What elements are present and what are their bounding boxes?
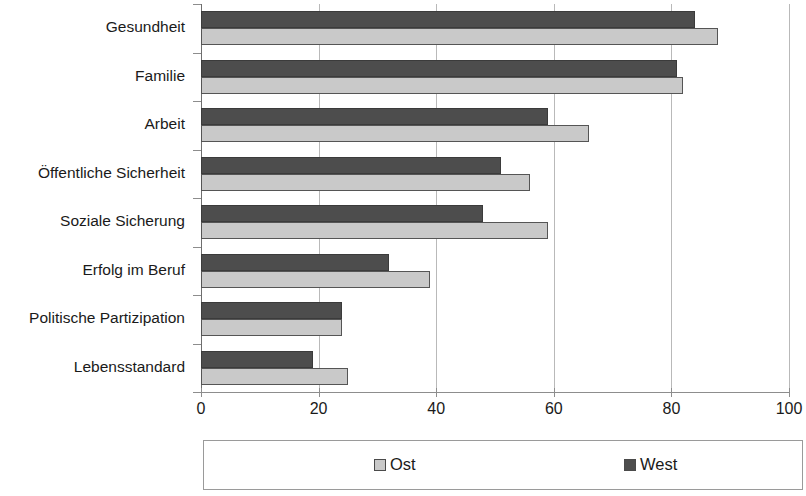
category-label-1: Familie bbox=[0, 67, 193, 85]
legend-entry-ost[interactable]: Ost bbox=[374, 455, 416, 474]
bar-west-4 bbox=[201, 205, 483, 222]
bar-chart: GesundheitFamilieArbeitÖffentliche Siche… bbox=[0, 0, 806, 496]
bar-west-0 bbox=[201, 11, 695, 28]
bar-west-7 bbox=[201, 351, 313, 368]
y-tick-mark-7 bbox=[193, 344, 201, 345]
bar-west-3 bbox=[201, 157, 501, 174]
gridline-100 bbox=[789, 4, 790, 392]
x-tick-label-80: 80 bbox=[662, 400, 680, 418]
legend-label-west: West bbox=[640, 455, 677, 474]
x-axis-line bbox=[201, 392, 790, 393]
x-tick-mark-0 bbox=[201, 388, 202, 397]
y-tick-mark-1 bbox=[193, 53, 201, 54]
y-tick-mark-2 bbox=[193, 101, 201, 102]
bar-ost-0 bbox=[201, 28, 718, 45]
x-tick-mark-80 bbox=[671, 388, 672, 397]
bar-ost-7 bbox=[201, 368, 348, 385]
category-label-4: Soziale Sicherung bbox=[0, 212, 193, 230]
y-tick-mark-3 bbox=[193, 150, 201, 151]
category-label-6: Politische Partizipation bbox=[0, 309, 193, 327]
chart-legend: OstWest bbox=[203, 440, 803, 490]
bar-west-2 bbox=[201, 108, 548, 125]
category-label-2: Arbeit bbox=[0, 115, 193, 133]
bar-ost-1 bbox=[201, 77, 683, 94]
x-tick-mark-100 bbox=[789, 388, 790, 397]
x-tick-mark-60 bbox=[554, 388, 555, 397]
x-tick-label-20: 20 bbox=[310, 400, 328, 418]
bar-ost-5 bbox=[201, 271, 430, 288]
bar-ost-3 bbox=[201, 174, 530, 191]
y-tick-mark-5 bbox=[193, 247, 201, 248]
bar-ost-4 bbox=[201, 222, 548, 239]
category-label-7: Lebensstandard bbox=[0, 358, 193, 376]
x-tick-label-60: 60 bbox=[545, 400, 563, 418]
legend-label-ost: Ost bbox=[390, 455, 416, 474]
legend-swatch-ost-icon bbox=[374, 459, 386, 471]
x-tick-label-0: 0 bbox=[197, 400, 206, 418]
bar-ost-6 bbox=[201, 319, 342, 336]
y-tick-mark-0 bbox=[193, 4, 201, 5]
y-tick-mark-end bbox=[193, 392, 201, 393]
bar-west-1 bbox=[201, 60, 677, 77]
legend-entry-west[interactable]: West bbox=[624, 455, 677, 474]
bar-ost-2 bbox=[201, 125, 589, 142]
legend-swatch-west-icon bbox=[624, 459, 636, 471]
category-label-3: Öffentliche Sicherheit bbox=[0, 164, 193, 182]
x-tick-mark-40 bbox=[436, 388, 437, 397]
bar-west-6 bbox=[201, 302, 342, 319]
category-label-0: Gesundheit bbox=[0, 18, 193, 36]
x-tick-mark-20 bbox=[319, 388, 320, 397]
bar-west-5 bbox=[201, 254, 389, 271]
y-tick-mark-6 bbox=[193, 295, 201, 296]
y-tick-mark-4 bbox=[193, 198, 201, 199]
category-label-5: Erfolg im Beruf bbox=[0, 261, 193, 279]
plot-area bbox=[201, 4, 789, 392]
x-tick-label-100: 100 bbox=[776, 400, 803, 418]
x-tick-label-40: 40 bbox=[427, 400, 445, 418]
